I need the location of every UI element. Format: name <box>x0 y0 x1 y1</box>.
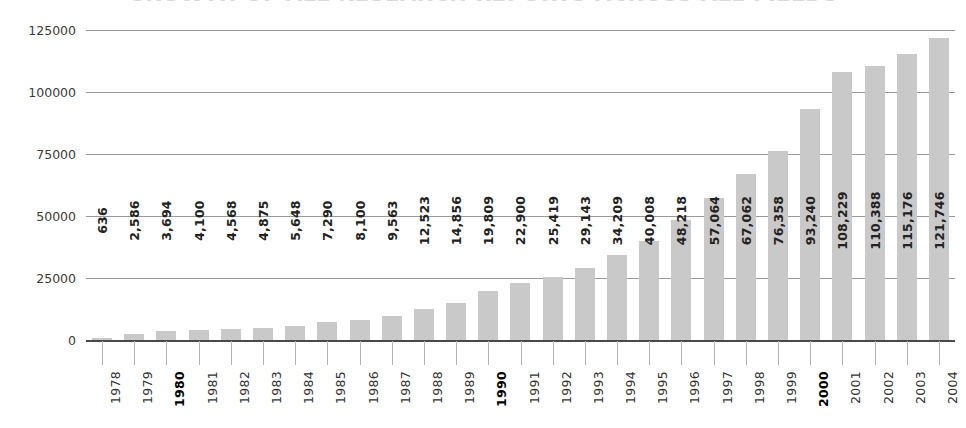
bar[interactable] <box>607 255 627 340</box>
bar-value-label: 2,586 <box>127 200 142 241</box>
bar-value-label: 29,143 <box>577 196 592 245</box>
x-axis: 1978197919801981198219831984198519861987… <box>86 341 955 428</box>
bar[interactable] <box>285 326 305 340</box>
x-axis-tick-label: 1979 <box>140 371 155 404</box>
bar-group[interactable]: 9,563 <box>376 30 408 340</box>
bar-series: 6362,5863,6944,1004,5684,8755,6487,2908,… <box>86 30 955 340</box>
bar-group[interactable]: 5,648 <box>279 30 311 340</box>
bar-group[interactable]: 4,568 <box>215 30 247 340</box>
x-axis-tick-label: 1991 <box>527 371 542 404</box>
bar-group[interactable]: 108,229 <box>826 30 858 340</box>
bar-group[interactable]: 7,290 <box>311 30 343 340</box>
bar-value-label: 108,229 <box>835 191 850 249</box>
bar-value-label: 5,648 <box>288 200 303 241</box>
x-axis-tick <box>585 341 586 365</box>
bar[interactable] <box>575 268 595 340</box>
x-axis-tick-label: 1993 <box>591 371 606 404</box>
x-axis-tick <box>488 341 489 365</box>
bar[interactable] <box>446 303 466 340</box>
bar-value-label: 8,100 <box>352 200 367 241</box>
bar-group[interactable]: 40,008 <box>633 30 665 340</box>
y-axis-tick-label: 0 <box>4 333 76 348</box>
bar-group[interactable]: 4,875 <box>247 30 279 340</box>
x-axis-tick-label: 1997 <box>720 371 735 404</box>
x-axis-tick <box>842 341 843 365</box>
x-axis-tick-label: 1988 <box>430 371 445 404</box>
bar[interactable] <box>414 309 434 340</box>
bar[interactable] <box>543 277 563 340</box>
bar-group[interactable]: 12,523 <box>408 30 440 340</box>
bar[interactable] <box>317 322 337 340</box>
bar[interactable] <box>382 316 402 340</box>
bar-group[interactable]: 67,062 <box>730 30 762 340</box>
bar-group[interactable]: 22,900 <box>504 30 536 340</box>
x-axis-tick <box>199 341 200 365</box>
bar-group[interactable]: 110,388 <box>858 30 890 340</box>
bar-group[interactable]: 8,100 <box>343 30 375 340</box>
x-axis-tick <box>134 341 135 365</box>
x-axis-tick <box>714 341 715 365</box>
bar[interactable] <box>221 329 241 340</box>
x-axis-tick <box>939 341 940 365</box>
bar-value-label: 110,388 <box>867 191 882 249</box>
x-axis-tick-label: 1987 <box>398 371 413 404</box>
x-axis-tick-label: 1998 <box>752 371 767 404</box>
bar[interactable] <box>253 328 273 340</box>
x-axis-tick-label: 2000 <box>816 371 831 407</box>
bar[interactable] <box>156 331 176 340</box>
x-axis-tick-label: 1980 <box>172 371 187 407</box>
bar-value-label: 4,875 <box>256 200 271 241</box>
bar-group[interactable]: 29,143 <box>569 30 601 340</box>
bar-value-label: 4,568 <box>223 200 238 241</box>
bar-group[interactable]: 121,746 <box>923 30 955 340</box>
bar[interactable] <box>768 151 788 340</box>
bar-value-label: 25,419 <box>545 196 560 245</box>
y-axis-tick-label: 125000 <box>4 23 76 38</box>
bar-group[interactable]: 3,694 <box>150 30 182 340</box>
bar-group[interactable]: 57,064 <box>698 30 730 340</box>
x-axis-tick <box>102 341 103 365</box>
bar[interactable] <box>92 338 112 340</box>
bar[interactable] <box>124 334 144 340</box>
x-axis-tick <box>360 341 361 365</box>
bar-value-label: 9,563 <box>384 200 399 241</box>
x-axis-tick-label: 1990 <box>494 371 509 407</box>
bar[interactable] <box>478 291 498 340</box>
bar-value-label: 93,240 <box>803 196 818 245</box>
y-axis-tick-label: 50000 <box>4 209 76 224</box>
x-axis-tick <box>263 341 264 365</box>
bar[interactable] <box>510 283 530 340</box>
bar[interactable] <box>929 38 949 340</box>
x-axis-tick <box>456 341 457 365</box>
bar-value-label: 14,856 <box>449 196 464 245</box>
bar-group[interactable]: 34,209 <box>601 30 633 340</box>
bar-group[interactable]: 25,419 <box>537 30 569 340</box>
x-axis-tick-label: 1978 <box>108 371 123 404</box>
bar-group[interactable]: 636 <box>86 30 118 340</box>
bar-group[interactable]: 115,176 <box>891 30 923 340</box>
bar-chart-figure: GROWTH OF ALL RESEARCH REPORTS ACROSS AL… <box>0 0 966 428</box>
x-axis-tick-label: 1999 <box>784 371 799 404</box>
x-axis-tick <box>553 341 554 365</box>
bar-group[interactable]: 14,856 <box>440 30 472 340</box>
x-axis-tick <box>907 341 908 365</box>
bar[interactable] <box>189 330 209 340</box>
x-axis-tick <box>617 341 618 365</box>
bar-value-label: 19,809 <box>481 196 496 245</box>
bar-group[interactable]: 93,240 <box>794 30 826 340</box>
x-axis-tick <box>746 341 747 365</box>
bar-group[interactable]: 48,218 <box>665 30 697 340</box>
bar-group[interactable]: 2,586 <box>118 30 150 340</box>
bar-group[interactable]: 76,358 <box>762 30 794 340</box>
bar[interactable] <box>639 241 659 340</box>
x-axis-tick-label: 1995 <box>655 371 670 404</box>
y-axis-tick-label: 25000 <box>4 271 76 286</box>
x-axis-tick <box>875 341 876 365</box>
x-axis-tick <box>521 341 522 365</box>
bar-value-label: 40,008 <box>642 196 657 245</box>
bar-group[interactable]: 19,809 <box>472 30 504 340</box>
bar-value-label: 7,290 <box>320 200 335 241</box>
bar[interactable] <box>350 320 370 340</box>
bar-group[interactable]: 4,100 <box>183 30 215 340</box>
y-axis-tick-label: 75000 <box>4 147 76 162</box>
